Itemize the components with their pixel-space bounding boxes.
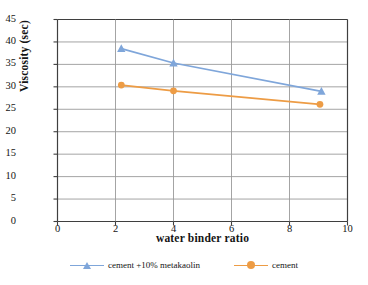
y-tick-label: 20: [0, 126, 16, 136]
y-tick-label: 5: [0, 193, 16, 203]
legend-label: cement: [272, 260, 298, 270]
series-line-0: [121, 49, 321, 92]
y-tick-label: 30: [0, 81, 16, 91]
y-tick-label: 10: [0, 171, 16, 181]
data-point-marker: [170, 87, 177, 94]
legend-marker-circle-icon: [247, 261, 255, 269]
y-tick-label: 0: [0, 216, 16, 226]
series-line-1: [121, 85, 320, 104]
viscosity-chart: Viscosity (sec) water binder ratio 05101…: [0, 0, 368, 285]
y-tick-label: 45: [0, 14, 16, 24]
data-point-marker: [118, 82, 125, 89]
legend-marker-triangle-icon: [83, 262, 91, 269]
x-tick-label: 10: [328, 223, 368, 234]
legend-label: cement +10% metakaolin: [108, 260, 200, 270]
y-tick-label: 25: [0, 103, 16, 113]
y-tick-label: 35: [0, 58, 16, 68]
y-axis-title: Viscosity (sec): [18, 0, 30, 126]
legend-swatch: [70, 260, 104, 270]
x-tick-label: 0: [38, 223, 78, 234]
legend-swatch: [234, 260, 268, 270]
chart-legend: cement +10% metakaolincement: [0, 260, 368, 270]
x-tick-label: 2: [96, 223, 136, 234]
x-tick-label: 4: [154, 223, 194, 234]
legend-item-1[interactable]: cement: [234, 260, 298, 270]
y-tick-label: 40: [0, 36, 16, 46]
y-tick-label: 15: [0, 148, 16, 158]
data-point-marker: [317, 101, 324, 108]
data-point-marker: [117, 44, 125, 52]
legend-item-0[interactable]: cement +10% metakaolin: [70, 260, 200, 270]
x-tick-label: 6: [212, 223, 252, 234]
x-tick-label: 8: [270, 223, 310, 234]
